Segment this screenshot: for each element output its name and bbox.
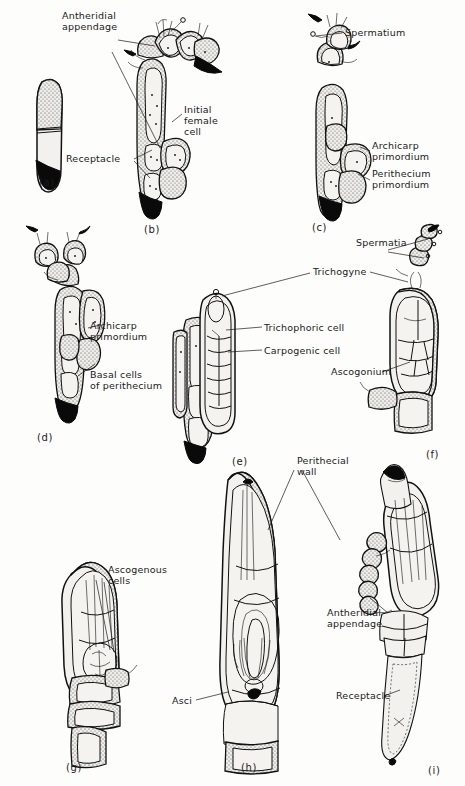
panel-letter-c: (c) — [312, 222, 327, 233]
label-receptacle-b: Receptacle — [66, 153, 120, 164]
label-ascogonium: Ascogonium — [331, 366, 391, 377]
label-asci: Asci — [172, 695, 192, 706]
label-archicarp-primordium-d: Archicarp primordium — [90, 320, 147, 342]
panel-c-drawing — [308, 13, 371, 221]
panel-a-drawing — [36, 80, 62, 192]
panel-h-drawing — [220, 472, 280, 774]
label-spermatia: Spermatia — [356, 237, 407, 248]
label-trichophoric-cell: Trichophoric cell — [264, 322, 344, 333]
label-basal-cells-of-perithecium: Basal cells of perithecium — [90, 369, 162, 391]
label-perithecial-wall: Perithecial wall — [297, 455, 349, 477]
label-perithecium-primordium: Perithecium primordium — [372, 168, 431, 190]
panel-letter-h: (h) — [241, 762, 257, 773]
label-trichogyne: Trichogyne — [313, 266, 367, 277]
panel-letter-e: (e) — [232, 456, 248, 467]
panel-letter-a: (a) — [39, 177, 55, 188]
label-receptacle-i: Receptacle — [336, 690, 390, 701]
label-initial-female-cell: Initial female cell — [184, 104, 218, 137]
panel-letter-f: (f) — [426, 449, 439, 460]
panel-e-drawing — [173, 289, 235, 463]
panel-letter-i: (i) — [428, 765, 440, 776]
label-antheridial-appendage-b: Antheridial appendage — [62, 10, 117, 32]
label-archicarp-primordium-c: Archicarp primordium — [372, 140, 429, 162]
panel-letter-g: (g) — [66, 762, 82, 773]
panel-letter-d: (d) — [37, 432, 53, 443]
panel-f-drawing — [360, 225, 442, 434]
label-spermatium: Spermatium — [345, 27, 405, 38]
label-antheridial-appendage-i: Antheridial appendage — [327, 607, 382, 629]
panel-letter-b: (b) — [144, 224, 160, 235]
figure-plate: Antheridial appendage Initial female cel… — [0, 0, 465, 786]
panel-g-drawing — [62, 562, 137, 767]
figure-artwork — [0, 0, 465, 786]
label-ascogenous-cells: Ascogenous cells — [108, 564, 167, 586]
label-carpogenic-cell: Carpogenic cell — [264, 345, 340, 356]
